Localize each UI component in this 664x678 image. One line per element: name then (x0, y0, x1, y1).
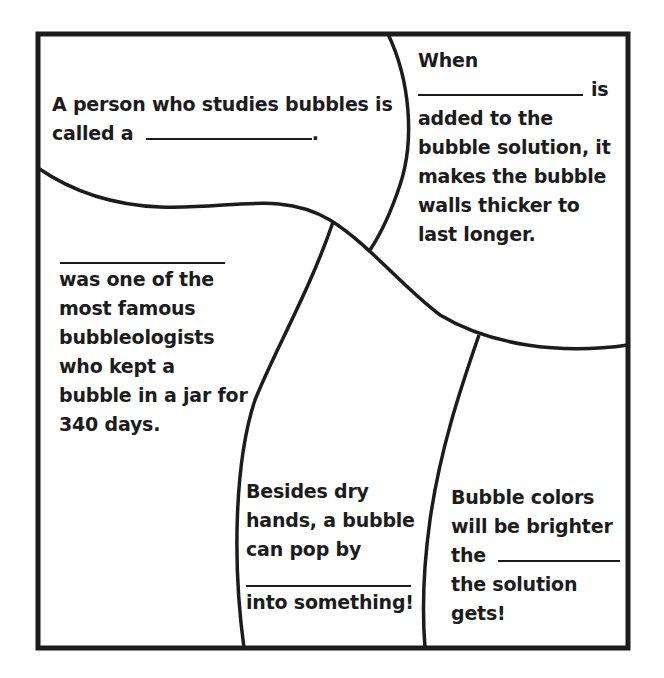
text-line: bubbleologists (59, 323, 248, 352)
answer-blank[interactable] (418, 76, 583, 96)
text-line: last longer. (418, 220, 611, 249)
text-line: bubble solution, it (418, 133, 611, 162)
text-line: gets! (451, 599, 620, 628)
text-line: added to the (418, 104, 611, 133)
text-line: can pop by (246, 535, 415, 564)
answer-blank[interactable] (498, 542, 620, 562)
text-line: 340 days. (59, 410, 248, 439)
text-line: walls thicker to (418, 191, 611, 220)
text-line: will be brighter (451, 512, 620, 541)
text-fragment: is (591, 78, 608, 100)
text-line: the solution (451, 570, 620, 599)
text-line: A person who studies bubbles is (52, 90, 393, 119)
answer-blank[interactable] (60, 262, 225, 264)
text-line: bubble in a jar for (59, 381, 248, 410)
text-fragment: the (451, 544, 486, 566)
text-fragment: . (312, 122, 319, 144)
section-bubble-pop-end: into something! (246, 588, 414, 617)
text-line: the (451, 541, 620, 570)
text-line: into something! (246, 588, 414, 617)
text-line: most famous (59, 294, 248, 323)
section-bubble-pop: Besides dry hands, a bubble can pop by (246, 477, 415, 564)
answer-blank[interactable] (146, 120, 312, 140)
section-bubble-scientist: A person who studies bubbles is called a… (52, 90, 393, 148)
text-line: makes the bubble (418, 162, 611, 191)
text-line: Bubble colors (451, 483, 620, 512)
text-fragment: called a (52, 122, 133, 144)
text-line: Besides dry (246, 477, 415, 506)
section-bubble-thickener: When is added to the bubble solution, it… (418, 46, 611, 249)
text-line: When (418, 46, 611, 75)
worksheet: A person who studies bubbles is called a… (0, 0, 664, 678)
text-line: called a . (52, 119, 393, 148)
text-line: who kept a (59, 352, 248, 381)
text-line: is (418, 75, 611, 104)
section-bubble-colors: Bubble colors will be brighter the the s… (451, 483, 620, 628)
answer-blank[interactable] (246, 585, 411, 587)
section-famous-bubbleologist: was one of the most famous bubbleologist… (59, 265, 248, 439)
text-line: hands, a bubble (246, 506, 415, 535)
text-line: was one of the (59, 265, 248, 294)
